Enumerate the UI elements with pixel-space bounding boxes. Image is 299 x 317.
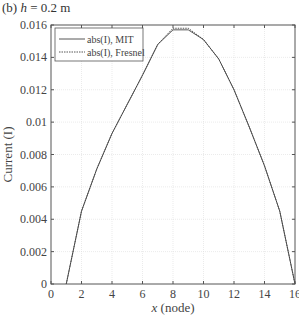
y-tick-label: 0.004	[20, 212, 47, 226]
x-tick-label: 10	[198, 287, 210, 301]
x-tick-label: 4	[109, 287, 115, 301]
x-tick-label: 16	[289, 287, 299, 301]
x-tick-label: 12	[228, 287, 240, 301]
line-chart: 024681012141600.0020.0040.0060.0080.010.…	[0, 0, 299, 317]
x-axis-label: x (node)	[151, 300, 195, 315]
y-tick-label: 0.008	[20, 148, 47, 162]
legend: abs(I), MITabs(I), Fresnel	[55, 28, 145, 61]
plot-series	[66, 28, 295, 284]
x-tick-label: 14	[259, 287, 271, 301]
x-tick-label: 0	[48, 287, 54, 301]
legend-label: abs(I), MIT	[87, 34, 134, 46]
y-tick-label: 0.012	[20, 83, 47, 97]
y-tick-label: 0.002	[20, 245, 47, 259]
grid-lines	[51, 25, 295, 284]
y-axis-label: Current (I)	[0, 127, 15, 183]
series-line	[66, 28, 295, 284]
y-tick-label: 0.016	[20, 18, 47, 32]
x-tick-label: 6	[140, 287, 146, 301]
y-tick-label: 0.006	[20, 180, 47, 194]
x-tick-label: 8	[170, 287, 176, 301]
y-tick-label: 0.014	[20, 50, 47, 64]
x-tick-label: 2	[79, 287, 85, 301]
legend-label: abs(I), Fresnel	[87, 47, 145, 59]
y-tick-label: 0	[41, 277, 47, 291]
y-tick-label: 0.01	[26, 115, 47, 129]
